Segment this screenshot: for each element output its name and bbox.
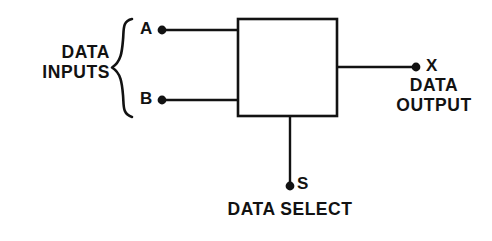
data-output-label: DATA OUTPUT bbox=[378, 76, 490, 115]
diagram-canvas: DATA INPUTS A B X DATA OUTPUT S DATA SEL… bbox=[0, 0, 492, 241]
data-select-label: DATA SELECT bbox=[190, 200, 390, 220]
input-b-label: B bbox=[140, 89, 152, 108]
multiplexer-block bbox=[238, 19, 337, 116]
select-s-terminal-dot bbox=[286, 182, 295, 191]
data-inputs-label: DATA INPUTS bbox=[18, 43, 110, 82]
input-a-label: A bbox=[140, 19, 152, 38]
input-a-terminal-dot bbox=[158, 26, 167, 35]
input-b-terminal-dot bbox=[158, 96, 167, 105]
output-x-label: X bbox=[426, 56, 438, 75]
output-x-terminal-dot bbox=[412, 63, 421, 72]
select-s-label: S bbox=[297, 174, 309, 193]
data-inputs-brace bbox=[112, 19, 132, 117]
